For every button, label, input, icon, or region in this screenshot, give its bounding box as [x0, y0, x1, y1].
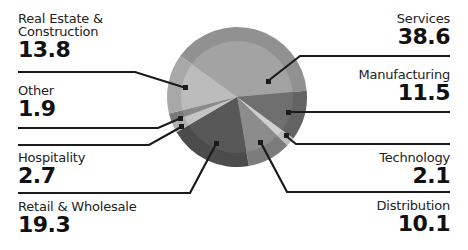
- label-technology: Technology 2.1: [379, 151, 450, 187]
- pie-inner-slices: [181, 41, 293, 153]
- label-distribution: Distribution 10.1: [377, 199, 450, 235]
- leader-line-technology: [286, 136, 450, 144]
- label-value: 11.5: [358, 82, 450, 104]
- label-value: 10.1: [377, 213, 450, 235]
- label-value: 38.6: [397, 26, 450, 48]
- label-manufacturing: Manufacturing 11.5: [358, 68, 450, 104]
- label-retail: Retail & Wholesale 19.3: [18, 200, 137, 236]
- label-value: 2.7: [18, 165, 85, 187]
- label-value: 13.8: [18, 39, 103, 61]
- label-value: 19.3: [18, 214, 137, 236]
- leader-line-hospitality: [18, 127, 181, 145]
- label-value: 1.9: [18, 98, 55, 120]
- label-other: Other 1.9: [18, 84, 55, 120]
- label-value: 2.1: [379, 165, 450, 187]
- label-hospitality: Hospitality 2.7: [18, 151, 85, 187]
- label-services: Services 38.6: [397, 12, 450, 48]
- label-real-estate: Real Estate & Construction 13.8: [18, 12, 103, 61]
